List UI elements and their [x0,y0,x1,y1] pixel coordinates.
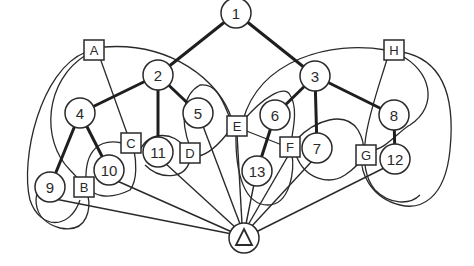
node-9[interactable]: 9 [35,172,65,202]
svg-text:G: G [361,148,371,163]
svg-text:11: 11 [150,144,166,161]
svg-text:H: H [389,43,398,58]
root-triangle-node[interactable] [229,223,259,253]
svg-text:C: C [126,136,135,151]
svg-text:7: 7 [313,140,321,157]
svg-text:D: D [185,146,194,161]
node-1[interactable]: 1 [221,0,251,28]
node-5[interactable]: 5 [183,98,213,128]
node-12[interactable]: 12 [380,144,410,174]
svg-text:E: E [233,119,242,134]
svg-text:2: 2 [154,67,162,84]
svg-text:F: F [286,140,294,155]
node-4[interactable]: 4 [65,98,95,128]
svg-text:8: 8 [390,107,398,124]
node-13[interactable]: 13 [242,156,272,186]
node-10[interactable]: 10 [94,155,124,185]
svg-text:A: A [90,43,99,58]
box-B[interactable]: B [74,177,94,197]
node-3[interactable]: 3 [300,61,330,91]
svg-text:4: 4 [76,105,84,122]
node-11[interactable]: 11 [143,137,173,167]
box-C[interactable]: C [121,133,141,153]
svg-text:13: 13 [249,163,266,180]
node-8[interactable]: 8 [379,100,409,130]
node-6[interactable]: 6 [260,100,290,130]
box-D[interactable]: D [180,143,200,163]
svg-text:9: 9 [46,179,54,196]
box-G[interactable]: G [356,145,376,165]
svg-text:B: B [80,180,89,195]
box-H[interactable]: H [384,40,404,60]
box-F[interactable]: F [280,137,300,157]
box-E[interactable]: E [227,116,247,136]
svg-text:1: 1 [232,5,240,22]
node-7[interactable]: 7 [302,133,332,163]
diagram-canvas: 1 2 3 4 5 6 7 8 9 10 11 12 13 A B C D E … [0,0,474,266]
node-2[interactable]: 2 [143,60,173,90]
svg-text:12: 12 [387,151,404,168]
box-A[interactable]: A [84,40,104,60]
svg-text:5: 5 [194,105,202,122]
svg-text:3: 3 [311,68,319,85]
graph-svg: 1 2 3 4 5 6 7 8 9 10 11 12 13 A B C D E … [0,0,474,266]
svg-text:10: 10 [101,162,118,179]
svg-text:6: 6 [271,107,279,124]
